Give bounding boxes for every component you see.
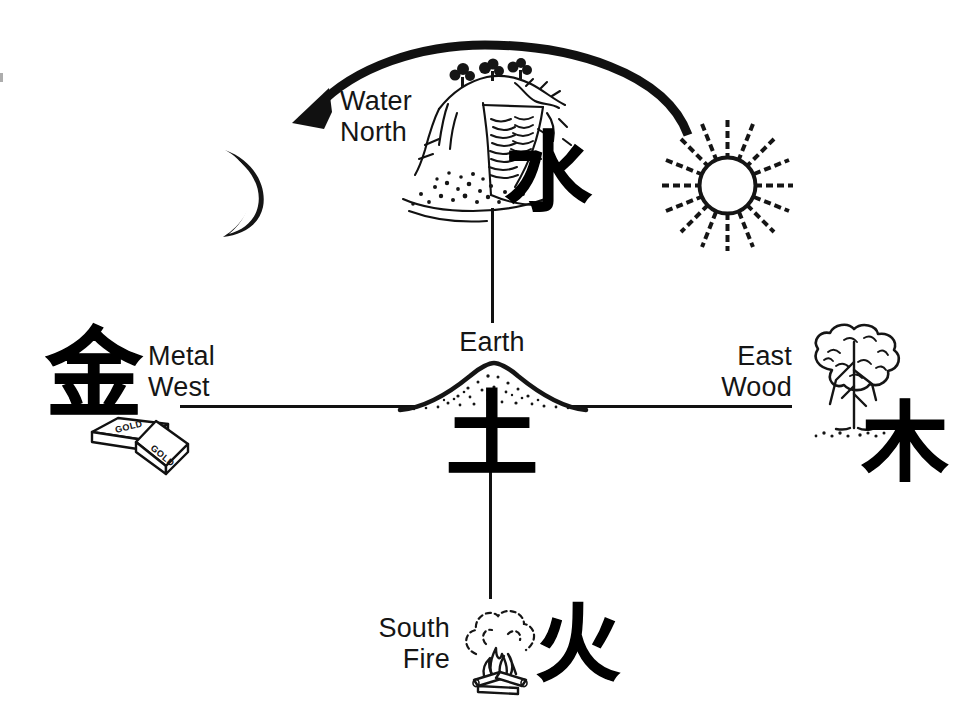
- east-wood-label: East Wood: [672, 341, 792, 404]
- south-fire-label: South Fire: [340, 613, 450, 676]
- water-kanji: 水: [505, 130, 591, 216]
- metal-west-label: Metal West: [148, 341, 268, 404]
- crescent-moon-icon: [205, 145, 275, 240]
- wood-kanji: 木: [862, 400, 948, 486]
- earth-kanji: 土: [446, 390, 538, 482]
- gold-bars-illustration: GOLD GOLD: [86, 402, 196, 474]
- sun-rays-icon: [660, 118, 795, 253]
- earth-label: Earth: [432, 327, 552, 358]
- scan-artifact: [0, 73, 3, 82]
- five-elements-diagram: Water North: [0, 0, 965, 726]
- fire-kanji: 火: [536, 602, 620, 686]
